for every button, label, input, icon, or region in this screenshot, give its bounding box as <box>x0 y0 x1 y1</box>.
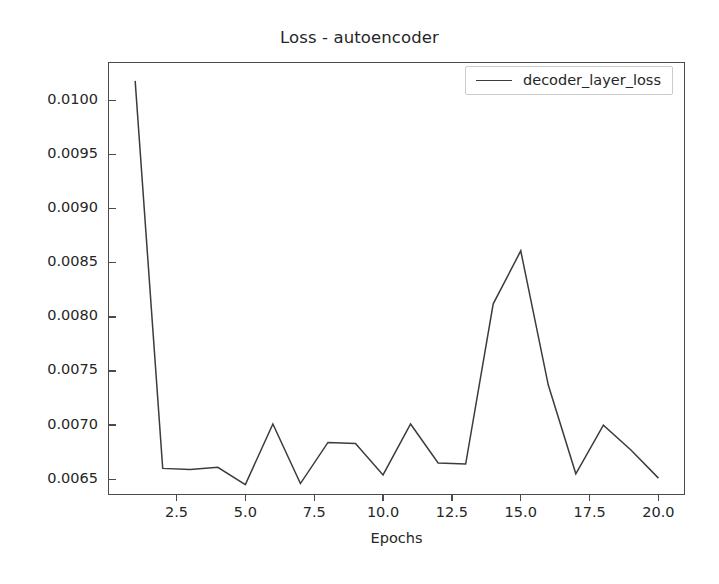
x-tick-label: 7.5 <box>303 504 326 520</box>
y-tick-label: 0.0095 <box>47 145 98 161</box>
x-tick-mark <box>245 494 246 501</box>
x-tick-mark <box>520 494 521 501</box>
matplotlib-figure: Loss - autoencoder 0.00650.00700.00750.0… <box>0 0 719 584</box>
x-tick-label: 17.5 <box>573 504 605 520</box>
x-tick-mark <box>314 494 315 501</box>
x-tick-label: 20.0 <box>642 504 674 520</box>
y-tick-label: 0.0080 <box>47 307 98 323</box>
y-tick-mark <box>109 154 116 155</box>
x-tick-mark <box>658 494 659 501</box>
y-tick-label: 0.0085 <box>47 253 98 269</box>
y-tick-mark <box>109 424 116 425</box>
y-tick-label: 0.0075 <box>47 361 98 377</box>
y-tick-label: 0.0100 <box>47 91 98 107</box>
x-tick-mark <box>451 494 452 501</box>
x-tick-mark <box>382 494 383 501</box>
data-line-series <box>109 63 686 496</box>
decoder-layer-loss-line <box>135 81 658 485</box>
x-tick-label: 2.5 <box>165 504 188 520</box>
x-tick-label: 15.0 <box>505 504 537 520</box>
y-tick-mark <box>109 100 116 101</box>
legend-label-decoder-layer-loss: decoder_layer_loss <box>523 73 661 88</box>
chart-legend[interactable]: decoder_layer_loss <box>465 66 673 95</box>
y-tick-mark <box>109 370 116 371</box>
legend-line-swatch <box>476 80 512 81</box>
x-axis-label: Epochs <box>108 530 685 546</box>
y-tick-mark <box>109 208 116 209</box>
x-tick-mark <box>589 494 590 501</box>
y-tick-label: 0.0070 <box>47 416 98 432</box>
x-tick-label: 12.5 <box>436 504 468 520</box>
y-tick-label: 0.0065 <box>47 470 98 486</box>
y-tick-mark <box>109 262 116 263</box>
plot-area: 0.00650.00700.00750.00800.00850.00900.00… <box>108 62 685 495</box>
x-tick-label: 10.0 <box>367 504 399 520</box>
y-tick-mark <box>109 479 116 480</box>
y-tick-mark <box>109 316 116 317</box>
chart-title: Loss - autoencoder <box>0 28 719 47</box>
x-tick-mark <box>176 494 177 501</box>
y-tick-label: 0.0090 <box>47 199 98 215</box>
x-tick-label: 5.0 <box>234 504 257 520</box>
